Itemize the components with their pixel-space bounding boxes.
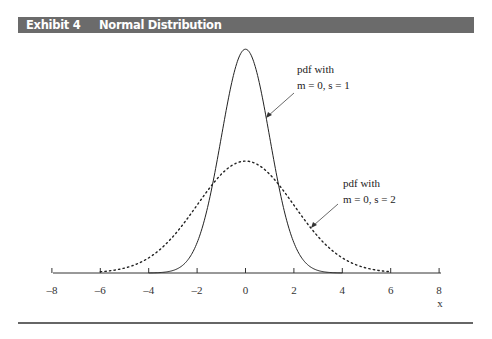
arrow-s1 bbox=[268, 93, 294, 116]
x-tick-label: 6 bbox=[388, 284, 394, 296]
annotation-s2: pdf with m = 0, s = 2 bbox=[311, 177, 396, 228]
x-tick-label: –8 bbox=[45, 284, 58, 296]
normal-distribution-chart: –8–6–4–202468 pdf with m = 0, s = 1 pdf … bbox=[0, 0, 492, 339]
x-tick-label: 2 bbox=[291, 284, 297, 296]
x-axis-ticks: –8–6–4–202468 bbox=[45, 268, 442, 296]
bottom-rule bbox=[18, 322, 473, 324]
x-tick-label: 4 bbox=[340, 284, 346, 296]
annotation-s1: pdf with m = 0, s = 1 bbox=[266, 63, 350, 118]
x-tick-label: 8 bbox=[436, 284, 442, 296]
x-tick-label: –6 bbox=[94, 284, 107, 296]
x-tick-label: –4 bbox=[142, 284, 155, 296]
x-tick-label: 0 bbox=[243, 284, 249, 296]
x-axis-label: x bbox=[437, 297, 443, 309]
annotation-s2-line2: m = 0, s = 2 bbox=[343, 193, 396, 205]
annotation-s1-line2: m = 0, s = 1 bbox=[297, 79, 350, 91]
annotation-s2-line1: pdf with bbox=[343, 177, 380, 189]
x-tick-label: –2 bbox=[191, 284, 203, 296]
arrow-s2 bbox=[314, 204, 338, 225]
annotation-s1-line1: pdf with bbox=[297, 63, 334, 75]
